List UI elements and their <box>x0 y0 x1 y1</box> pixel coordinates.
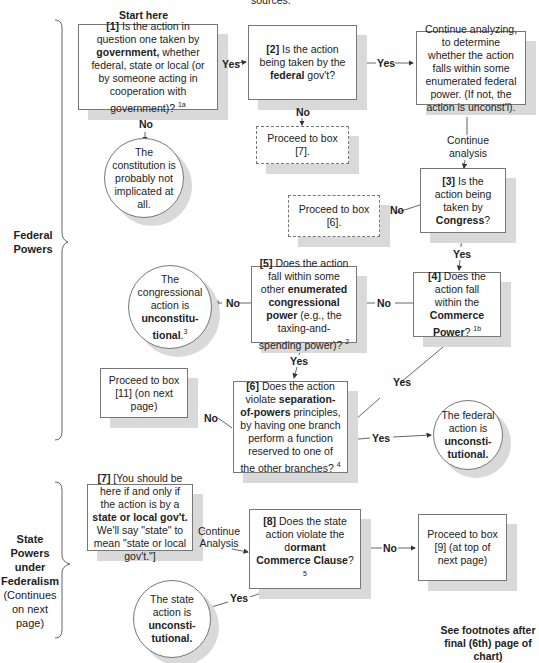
edge-label-no: No <box>226 297 240 309</box>
footnote-ref: 5 <box>303 570 307 577</box>
circle-federal-unconstitutional: The federal action is unconsti-tutional. <box>433 400 503 470</box>
edge-label-no: No <box>377 297 391 309</box>
circle-congressional-unconstitutional: The congressional action is unconstitu-t… <box>128 265 212 349</box>
box-bold-text: government, <box>96 46 159 58</box>
box-text: Proceed to box [11] (on next page) <box>107 374 181 413</box>
box-number: [2] <box>266 43 279 55</box>
circle-bold-text: unconsti-tutional. <box>444 435 491 460</box>
section-state-powers-subtitle: (Continues on next page) <box>0 588 60 630</box>
box-text: We'll say "state" to mean "state or loca… <box>94 524 186 562</box>
box-text: Proceed to box [9] (at top of next page) <box>425 528 500 567</box>
edge-label-no: No <box>139 118 153 130</box>
box-2-federal-gov: [2] Is the action being taken by the fed… <box>248 25 357 100</box>
edge-label-yes: Yes <box>453 248 471 260</box>
footnote-ref: 2 <box>345 338 349 345</box>
footnote-note: See footnotes after final (6th) page of … <box>440 624 536 663</box>
box-proceed-to-6: Proceed to box [6]. <box>288 195 380 237</box>
box-text: gov't? <box>304 69 335 81</box>
box-proceed-to-11: Proceed to box [11] (on next page) <box>100 368 188 418</box>
box-number: [4] <box>428 270 441 282</box>
box-bold-text: federal <box>270 69 304 81</box>
edge-label-yes: Yes <box>393 376 411 388</box>
edge-label-no: No <box>296 106 310 118</box>
circle-text: The congressional action is <box>138 273 203 311</box>
box-text: ? <box>484 214 490 226</box>
edge-label-no: No <box>383 542 397 554</box>
edge-label-yes: Yes <box>377 57 395 69</box>
box-continue-analyzing: Continue analyzing, to determine whether… <box>416 31 526 105</box>
edge-label-no: No <box>390 204 404 216</box>
circle-bold-text: unconsti-tutional. <box>148 619 195 644</box>
section-state-powers: State Powers under Federalism (Continues… <box>0 532 60 630</box>
section-state-powers-title: State Powers under Federalism <box>0 532 60 588</box>
box-number: [6] <box>246 380 259 392</box>
section-federal-powers: Federal Powers <box>10 228 56 256</box>
box-number: [5] <box>260 257 273 269</box>
circle-text: The state action is <box>150 593 194 618</box>
edge-label-continue-analysis: Continue analysis <box>440 134 496 160</box>
box-6-separation-of-powers: [6] Does the action violate separation-o… <box>233 381 348 473</box>
cut-header-text: sources. <box>251 0 351 7</box>
box-bold-text: Congress <box>436 214 484 226</box>
box-text: ? <box>348 554 354 566</box>
box-number: [8] <box>263 515 276 527</box>
edge-label-yes: Yes <box>290 355 308 367</box>
box-bold-text: Commerce Power <box>430 309 484 338</box>
box-bold-text: ormant Commerce Clause <box>256 541 348 566</box>
box-number: [1] <box>106 20 119 32</box>
box-text: Proceed to box [7]. <box>263 132 342 158</box>
footnote-ref: 4 <box>337 461 341 468</box>
circle-text: The federal action is <box>441 409 494 434</box>
edge-label-continue-analysis: Continue Analysis <box>198 525 240 549</box>
box-text: ? <box>464 326 473 338</box>
footnote-ref: 1a <box>178 101 186 108</box>
circle-not-implicated: The constitution is probably not implica… <box>104 138 184 218</box>
box-text: Proceed to box [6]. <box>295 203 373 229</box>
footnote-ref: 1b <box>473 325 481 332</box>
box-text: [You should be here if and only if the a… <box>100 472 182 510</box>
box-bold-text: state or local gov't. <box>92 511 187 523</box>
box-number: [3] <box>442 175 455 187</box>
box-5-enumerated-power: [5] Does the action fall within some oth… <box>251 266 357 343</box>
box-number: [7] <box>98 472 111 484</box>
box-proceed-to-9: Proceed to box [9] (at top of next page) <box>418 514 507 581</box>
box-text: Does the action fall within the <box>435 270 486 308</box>
box-1-government-action: [1] Is the action in question one taken … <box>78 24 218 110</box>
box-text: Continue analyzing, to determine whether… <box>423 23 519 114</box>
box-8-dormant-commerce: [8] Does the state action violate the do… <box>249 509 361 589</box>
box-7-state-local: [7] [You should be here if and only if t… <box>87 484 193 551</box>
circle-state-unconstitutional: The state action is unconsti-tutional. <box>133 580 211 658</box>
box-proceed-to-7: Proceed to box [7]. <box>256 126 349 164</box>
footnote-ref: 3 <box>184 328 188 335</box>
edge-label-yes: Yes <box>372 432 390 444</box>
edge-label-no: No <box>204 412 218 424</box>
box-4-commerce-power: [4] Does the action fall within the Comm… <box>413 272 501 337</box>
edge-label-yes: Yes <box>222 58 240 70</box>
circle-text: The constitution is probably not implica… <box>111 146 177 211</box>
edge-label-yes: Yes <box>230 592 248 604</box>
box-3-congress: [3] Is the action being taken by Congres… <box>420 168 506 233</box>
circle-bold-text: unconstitu-tional <box>141 312 198 341</box>
